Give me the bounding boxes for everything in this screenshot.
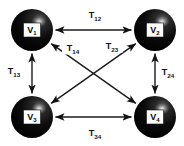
edge-label-subscript: 24 <box>167 71 174 78</box>
graph-svg: V1V2V3V4 T12T13T14T23T24T34 <box>0 0 184 146</box>
edge-label-subscript: 34 <box>94 132 101 139</box>
edge-label-subscript: 13 <box>13 70 20 77</box>
graph-node-v3[interactable]: V3 <box>11 96 53 138</box>
edges-layer <box>32 30 155 117</box>
edge-label-subscript: 23 <box>111 45 118 52</box>
edge-label-e34: T34 <box>84 127 106 140</box>
edge-label-e13: T13 <box>3 65 25 78</box>
edge-label-e14: T14 <box>62 42 84 55</box>
graph-node-v4[interactable]: V4 <box>134 96 176 138</box>
graph-node-v1[interactable]: V1 <box>11 9 53 51</box>
edge-label-e12: T12 <box>84 9 106 22</box>
edge-label-subscript: 14 <box>72 47 79 54</box>
edge-label-e23: T23 <box>101 40 123 53</box>
graph-node-v2[interactable]: V2 <box>134 9 176 51</box>
edge-label-subscript: 12 <box>94 14 101 21</box>
edge-label-e24: T24 <box>157 66 179 79</box>
graph-diagram-canvas: V1V2V3V4 T12T13T14T23T24T34 <box>0 0 184 146</box>
